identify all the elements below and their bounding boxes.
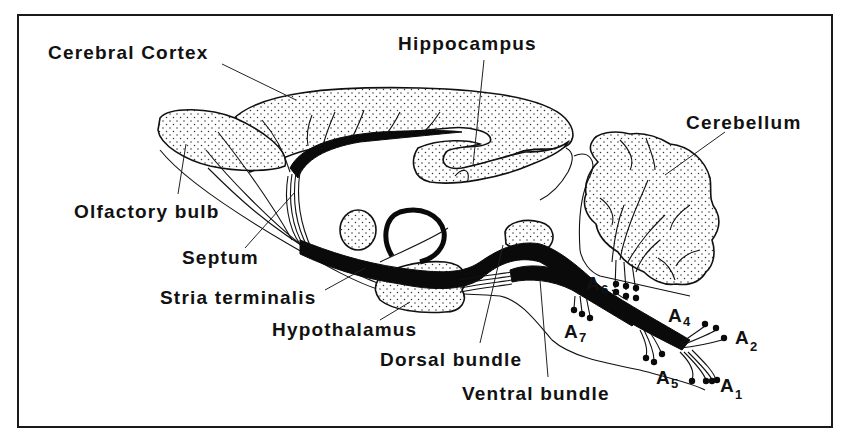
brain-pathway-diagram: Cerebral Cortex Hippocampus Cerebellum O… bbox=[0, 0, 848, 439]
label-cerebellum: Cerebellum bbox=[686, 112, 801, 133]
diagram-canvas: Cerebral Cortex Hippocampus Cerebellum O… bbox=[0, 0, 848, 439]
label-A4: A4 bbox=[668, 305, 691, 329]
label-cerebral-cortex: Cerebral Cortex bbox=[48, 42, 209, 63]
label-A5: A5 bbox=[656, 367, 679, 391]
stria-terminalis-loop bbox=[380, 210, 448, 262]
label-septum: Septum bbox=[182, 247, 259, 268]
label-hippocampus: Hippocampus bbox=[398, 33, 537, 54]
label-dorsal-bundle: Dorsal bundle bbox=[380, 349, 522, 370]
label-olfactory-bulb: Olfactory bulb bbox=[74, 201, 220, 222]
label-hypothalamus: Hypothalamus bbox=[272, 319, 417, 340]
label-A6: A6 bbox=[586, 273, 609, 297]
label-A1: A1 bbox=[720, 375, 743, 402]
septum-region bbox=[340, 210, 376, 250]
label-stria-terminalis: Stria terminalis bbox=[160, 287, 316, 308]
label-A2: A2 bbox=[735, 327, 758, 354]
label-ventral-bundle: Ventral bundle bbox=[462, 383, 610, 404]
label-A7: A7 bbox=[564, 321, 587, 345]
cerebellum-region bbox=[584, 132, 719, 284]
